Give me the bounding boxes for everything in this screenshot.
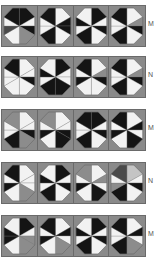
- pinwheel-tile: [74, 163, 110, 203]
- strip-label: M: [148, 124, 154, 131]
- pinwheel-tile: [109, 163, 145, 203]
- pinwheel-tile: [38, 163, 74, 203]
- pattern-strip: [2, 216, 145, 256]
- pinwheel-tile: [109, 57, 145, 97]
- pattern-strip: [2, 57, 145, 97]
- pinwheel-tile: [109, 110, 145, 150]
- pinwheel-tile: [2, 163, 38, 203]
- pattern-strip: [2, 110, 145, 150]
- pinwheel-tile: [2, 6, 38, 46]
- pinwheel-tile: [2, 216, 38, 256]
- pinwheel-tile: [38, 216, 74, 256]
- strip-label: N: [148, 71, 153, 78]
- strip-label: M: [148, 20, 154, 27]
- pattern-strip: [2, 6, 145, 46]
- pinwheel-tile: [74, 6, 110, 46]
- pinwheel-tile: [2, 57, 38, 97]
- strip-label: N: [148, 177, 153, 184]
- pinwheel-tile: [109, 216, 145, 256]
- pinwheel-tile: [38, 6, 74, 46]
- pinwheel-tile: [38, 110, 74, 150]
- pinwheel-tile: [2, 110, 38, 150]
- pinwheel-tile: [74, 216, 110, 256]
- pinwheel-tile: [109, 6, 145, 46]
- pinwheel-tile: [74, 57, 110, 97]
- pattern-strip: [2, 163, 145, 203]
- pinwheel-tile: [38, 57, 74, 97]
- strip-label: M: [148, 230, 154, 237]
- pinwheel-tile: [74, 110, 110, 150]
